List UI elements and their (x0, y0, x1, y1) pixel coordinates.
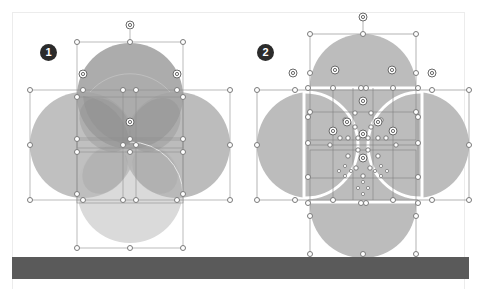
step-badge-2: 2 (257, 44, 274, 61)
panel-2 (255, 13, 472, 258)
diagram-surface (0, 0, 480, 289)
footer-bar (12, 257, 469, 279)
panel-1 (28, 21, 233, 251)
step-badge-1: 1 (40, 44, 57, 61)
